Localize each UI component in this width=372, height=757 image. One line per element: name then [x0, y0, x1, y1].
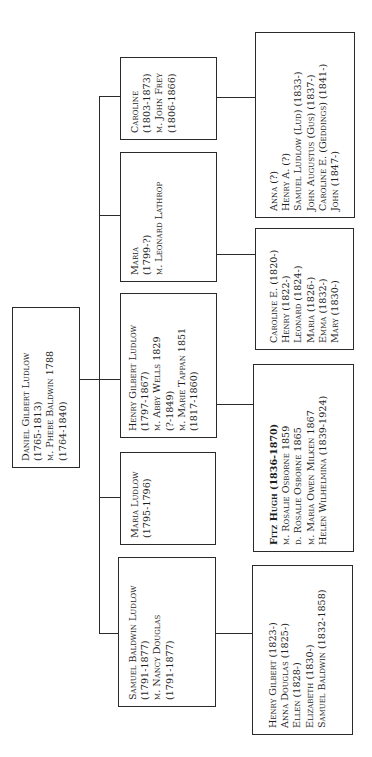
- name-line: Henry Gilbert Ludlow: [127, 300, 139, 431]
- spouse-dates-line: (1806-1866): [166, 64, 178, 133]
- child-line: Anna Douglas (1825-): [279, 572, 291, 728]
- person-box-maria-ludlow: Maria Ludlow (1795-1796): [120, 452, 216, 545]
- child-line: John (1847-): [329, 39, 341, 211]
- child-line: Emma (1832-): [317, 235, 329, 343]
- spouse-dates-line: (?-1849): [164, 300, 176, 431]
- spouse-dates-line-2: (1817-1860): [188, 300, 200, 431]
- spouse-line: m. Abby Wells 1829: [151, 300, 163, 431]
- spouse-line: d. Rosalie Osborne 1865: [292, 371, 304, 545]
- child-line: Elizabeth (1830-): [304, 572, 316, 728]
- name-line: Daniel Gilbert Ludlow: [20, 314, 32, 461]
- person-box-maria-lathrop: Maria (1799-?) m. Leonard Lathrop: [120, 152, 217, 282]
- child-line: Caroline E. (1820-): [268, 235, 280, 343]
- child-line: Samuel Baldwin (1832-1858): [316, 572, 328, 728]
- name-line: Maria Ludlow: [129, 459, 141, 538]
- child-line: Maria (1826-): [305, 235, 317, 343]
- connector-branch-henry: [99, 379, 120, 381]
- child-line: Leonard (1824-): [292, 235, 304, 343]
- person-box-henry-gilbert-ludlow: Henry Gilbert Ludlow (1797-1867) m. Abby…: [120, 293, 217, 438]
- child-line: Ellen (1828-): [291, 572, 303, 728]
- dates-line: (1799-?): [141, 159, 153, 275]
- child-line: Samuel Ludlow (Lud) (1833-): [292, 39, 304, 211]
- spouse-dates-line: (1764-1840): [57, 314, 69, 461]
- spouse-line: m. Maria Owen Milken 1867: [305, 371, 317, 545]
- child-line: Henry A. (?): [280, 39, 292, 211]
- connector-samuel-children: [216, 633, 252, 635]
- connector-branch-caroline: [99, 96, 120, 98]
- spouse-line: m. Leonard Lathrop: [153, 159, 165, 275]
- person-box-caroline: Caroline (1803-1873) m. John Frey (1806-…: [120, 57, 217, 140]
- connector-maria-children: [217, 254, 255, 256]
- children-box-lathrop: Caroline E. (1820-) Henry (1822-) Leonar…: [255, 228, 354, 350]
- dates-line: (1765-1813): [32, 314, 44, 461]
- spouse-line: m. Rosalie Osborne 1859: [280, 371, 292, 545]
- spouse-dates-line: (1791-1877): [164, 564, 176, 700]
- connector-branch-maria-lathrop: [99, 215, 120, 217]
- child-line: John Augustus (Gus) (1837-): [305, 39, 317, 211]
- child-line: Mary (1830-): [329, 235, 341, 343]
- children-box-frey: Anna (?) Henry A. (?) Samuel Ludlow (Lud…: [255, 32, 355, 218]
- child-line: Anna (?): [268, 39, 280, 211]
- connector-spine: [99, 96, 101, 634]
- spouse-line-2: m. Marie Tappan 1851: [176, 300, 188, 431]
- person-box-fitz-hugh: Fitz Hugh (1836-1870) m. Rosalie Osborne…: [253, 364, 354, 552]
- name-line: Caroline: [129, 64, 141, 133]
- connector-branch-samuel: [99, 633, 118, 635]
- person-box-daniel-gilbert-ludlow: Daniel Gilbert Ludlow (1765-1813) m. Phe…: [12, 307, 80, 468]
- sibling-line: Helen Wilhelmina (1839-1924): [317, 371, 329, 545]
- connector-branch-maria-ludlow: [99, 497, 120, 499]
- children-box-samuel: Henry Gilbert (1823-) Anna Douglas (1825…: [252, 565, 353, 735]
- child-line: Henry (1822-): [280, 235, 292, 343]
- child-line: Caroline E. (Geddings) (1841-): [317, 39, 329, 211]
- connector-caroline-children: [217, 97, 255, 99]
- spouse-line: m. John Frey: [153, 64, 165, 133]
- name-line: Fitz Hugh (1836-1870): [268, 371, 280, 545]
- dates-line: (1795-1796): [141, 459, 153, 538]
- spouse-line: m. Nancy Douglas: [151, 564, 163, 700]
- family-tree-diagram: Daniel Gilbert Ludlow (1765-1813) m. Phe…: [0, 0, 372, 757]
- connector-root-to-spine: [80, 379, 99, 381]
- name-line: Samuel Baldwin Ludlow: [127, 564, 139, 700]
- connector-henry-children: [217, 404, 253, 406]
- person-box-samuel-baldwin-ludlow: Samuel Baldwin Ludlow (1791-1877) m. Nan…: [118, 557, 216, 707]
- dates-line: (1791-1877): [139, 564, 151, 700]
- dates-line: (1797-1867): [139, 300, 151, 431]
- name-line: Maria: [129, 159, 141, 275]
- child-line: Henry Gilbert (1823-): [267, 572, 279, 728]
- spouse-line: m. Phebe Baldwin 1788: [44, 314, 56, 461]
- dates-line: (1803-1873): [141, 64, 153, 133]
